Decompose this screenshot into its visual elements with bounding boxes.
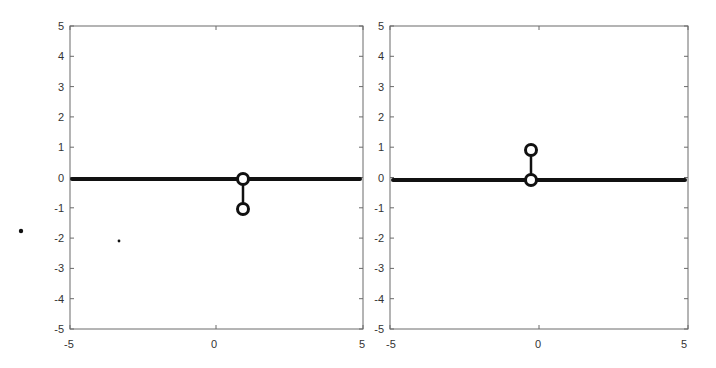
y-tick-label: -2 — [54, 232, 64, 244]
y-tick-label: -5 — [374, 323, 384, 335]
y-tick-label: -2 — [374, 232, 384, 244]
right-marker-bottom — [526, 175, 537, 186]
right-y-tick-labels: 5 4 3 2 1 0 -1 -2 -3 -4 -5 — [374, 20, 384, 335]
figure: 5 4 3 2 1 0 -1 -2 -3 -4 -5 -5 0 5 — [0, 0, 716, 368]
y-tick-label: -1 — [374, 202, 384, 214]
x-tick-label: 5 — [681, 338, 687, 350]
y-tick-label: 2 — [58, 111, 64, 123]
y-tick-label: -3 — [54, 262, 64, 274]
left-x-tick-labels: -5 0 5 — [64, 338, 365, 350]
stray-dot-outside — [19, 229, 23, 233]
right-x-tick-labels: -5 0 5 — [386, 338, 687, 350]
x-tick-label: 0 — [211, 338, 217, 350]
right-plot: 5 4 3 2 1 0 -1 -2 -3 -4 -5 -5 0 5 — [374, 20, 688, 350]
stray-dot-inside — [118, 240, 121, 243]
y-tick-label: 0 — [58, 172, 64, 184]
right-marker-top — [526, 145, 537, 156]
y-tick-label: 5 — [58, 20, 64, 32]
y-tick-label: 4 — [58, 50, 64, 62]
right-y-ticks — [390, 26, 688, 329]
left-plot: 5 4 3 2 1 0 -1 -2 -3 -4 -5 -5 0 5 — [54, 20, 365, 350]
y-tick-label: -3 — [374, 262, 384, 274]
y-tick-label: 1 — [58, 141, 64, 153]
y-tick-label: -4 — [374, 293, 384, 305]
right-x-ticks — [390, 26, 688, 329]
x-tick-label: -5 — [64, 338, 74, 350]
x-tick-label: 5 — [359, 338, 365, 350]
y-tick-label: 5 — [378, 20, 384, 32]
y-tick-label: 4 — [378, 50, 384, 62]
y-tick-label: 3 — [58, 81, 64, 93]
y-tick-label: 1 — [378, 141, 384, 153]
left-marker-top — [238, 174, 249, 185]
y-tick-label: -4 — [54, 293, 64, 305]
left-y-tick-labels: 5 4 3 2 1 0 -1 -2 -3 -4 -5 — [54, 20, 64, 335]
y-tick-label: 2 — [378, 111, 384, 123]
y-tick-label: 0 — [378, 172, 384, 184]
y-tick-label: -5 — [54, 323, 64, 335]
x-tick-label: -5 — [386, 338, 396, 350]
y-tick-label: -1 — [54, 202, 64, 214]
right-plot-frame — [390, 26, 688, 329]
left-marker-bottom — [238, 204, 249, 215]
y-tick-label: 3 — [378, 81, 384, 93]
x-tick-label: 0 — [535, 338, 541, 350]
